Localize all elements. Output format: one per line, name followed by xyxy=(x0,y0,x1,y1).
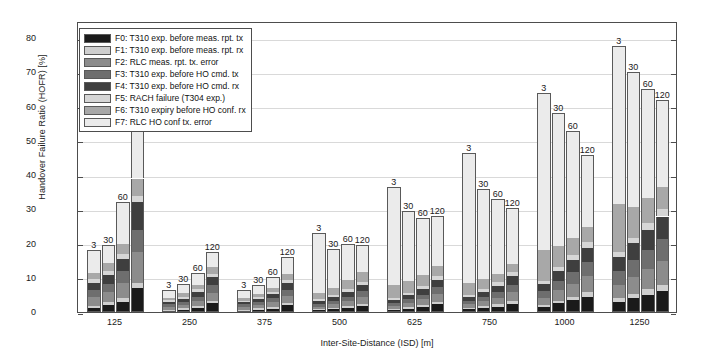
bar-segment xyxy=(341,289,355,292)
bar-segment xyxy=(477,301,491,306)
y-axis-tick-label: 80 xyxy=(0,33,36,43)
legend-label: F7: RLC HO conf tx. error xyxy=(115,117,212,127)
bar xyxy=(206,252,220,312)
legend-item: F5: RACH failure (T304 exp.) xyxy=(84,92,246,104)
bar xyxy=(281,257,295,312)
bar-segment xyxy=(506,276,520,284)
bar xyxy=(116,202,130,312)
bar-segment xyxy=(206,267,220,274)
bar-segment xyxy=(552,303,566,312)
bar-segment xyxy=(281,257,295,274)
bar-segment xyxy=(462,308,476,309)
bar-segment xyxy=(191,289,205,292)
bar-segment xyxy=(537,307,551,312)
legend-swatch-f0 xyxy=(84,34,111,43)
bar-segment xyxy=(477,297,491,301)
bar-segment xyxy=(387,309,401,310)
bar xyxy=(191,273,205,312)
bar-segment xyxy=(237,310,251,311)
bar-segment xyxy=(462,295,476,297)
bar-value-label: 60 xyxy=(556,121,590,131)
bar-value-label: 30 xyxy=(616,62,650,72)
bar-segment xyxy=(537,284,551,292)
x-axis-tick-label: 1250 xyxy=(610,317,670,327)
bar-segment xyxy=(237,304,251,306)
bar-segment xyxy=(506,304,520,312)
bar-segment xyxy=(281,303,295,305)
bar-segment xyxy=(566,255,580,260)
bar-segment xyxy=(477,306,491,308)
bar-segment xyxy=(266,309,280,312)
bar-segment xyxy=(116,202,130,243)
bar-segment xyxy=(612,271,626,285)
bar-segment xyxy=(431,276,445,280)
x-axis-tick-label: 125 xyxy=(85,317,145,327)
x-axis-tick-label: 250 xyxy=(160,317,220,327)
bar-segment xyxy=(162,302,176,304)
bar xyxy=(327,249,341,312)
bar-segment xyxy=(506,301,520,304)
bar-segment xyxy=(191,292,205,296)
bar-segment xyxy=(581,292,595,296)
bar-segment xyxy=(162,307,176,310)
bar-segment xyxy=(491,298,505,305)
bar-segment xyxy=(131,230,145,252)
bar-segment xyxy=(191,273,205,285)
bar-segment xyxy=(356,285,370,291)
bar-segment xyxy=(416,299,430,304)
bar-segment xyxy=(356,282,370,285)
bar-segment xyxy=(477,289,491,292)
bar-segment xyxy=(87,306,101,308)
bar-segment xyxy=(491,274,505,283)
bar-value-label: 120 xyxy=(270,247,304,257)
bar-value-label: 3 xyxy=(452,143,486,153)
bar-segment xyxy=(491,307,505,312)
bar-segment xyxy=(416,295,430,300)
bar xyxy=(87,250,101,312)
bar-segment xyxy=(177,308,191,309)
bar-segment xyxy=(641,230,655,250)
bar-segment xyxy=(506,264,520,272)
bar xyxy=(252,285,266,312)
bar-segment xyxy=(327,295,341,297)
bar-segment xyxy=(327,249,341,288)
y-axis-tick-label: 50 xyxy=(0,136,36,146)
bar-segment xyxy=(612,285,626,299)
bar-segment xyxy=(612,302,626,312)
bar-segment xyxy=(627,260,641,276)
bar-segment xyxy=(581,242,595,248)
bar-segment xyxy=(191,285,205,290)
bar-segment xyxy=(416,286,430,289)
bar-segment xyxy=(237,298,251,300)
bar-segment xyxy=(641,250,655,269)
bar-segment xyxy=(266,292,280,294)
bar-segment xyxy=(477,189,491,280)
bar-segment xyxy=(102,271,116,275)
bar-segment xyxy=(462,309,476,312)
legend-label: F3: T310 exp. before HO cmd. tx xyxy=(115,69,239,79)
bar-segment xyxy=(506,292,520,301)
bar-segment xyxy=(281,274,295,280)
bar-segment xyxy=(566,260,580,272)
bar-segment xyxy=(177,284,191,294)
bar-segment xyxy=(431,216,445,266)
bar-segment xyxy=(237,307,251,310)
bar-segment xyxy=(102,284,116,293)
bar-segment xyxy=(627,298,641,312)
bar-segment xyxy=(281,283,295,290)
bar-segment xyxy=(416,218,430,276)
bar-segment xyxy=(402,293,416,295)
bar-value-label: 3 xyxy=(602,36,636,46)
bar-segment xyxy=(506,285,520,293)
bar-segment xyxy=(491,292,505,298)
bar-segment xyxy=(87,273,101,280)
bar-segment xyxy=(462,301,476,304)
bar-segment xyxy=(87,290,101,298)
y-axis-tick-label: 30 xyxy=(0,204,36,214)
bar-segment xyxy=(356,306,370,312)
bar xyxy=(566,131,580,312)
bar-segment xyxy=(656,100,670,187)
bar-segment xyxy=(462,297,476,301)
bar-segment xyxy=(102,245,116,263)
bar-segment xyxy=(131,288,145,312)
